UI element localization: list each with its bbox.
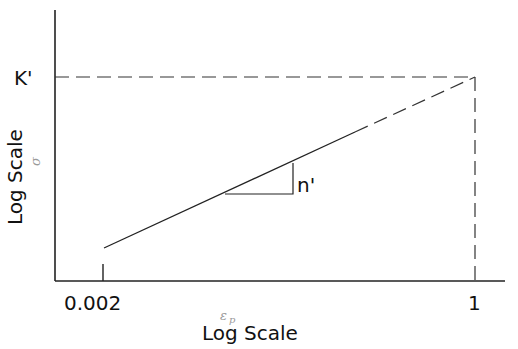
y-symbol-sigma: σ	[28, 156, 43, 166]
k-prime-label: K'	[14, 66, 33, 90]
x-tick-label-1: 1	[468, 291, 481, 315]
chart-canvas: n' K' 0.002 1 ε p Log Scale Log Scale σ	[0, 0, 518, 349]
x-tick-label-0002: 0.002	[64, 291, 121, 315]
solid-line	[104, 132, 355, 248]
n-prime-label: n'	[297, 173, 315, 197]
dashed-extrapolation	[355, 77, 475, 132]
y-axis-title: Log Scale	[3, 129, 27, 225]
slope-triangle	[225, 163, 293, 194]
x-axis-title: Log Scale	[202, 321, 298, 345]
